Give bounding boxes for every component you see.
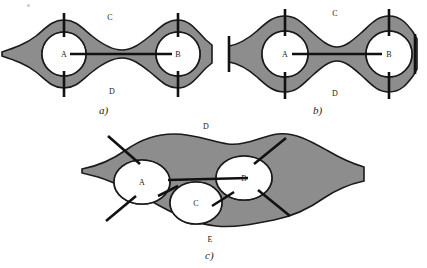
panel-b-hole-label-A: A [282, 50, 288, 59]
panel-a-hole-label-A: A [61, 50, 67, 59]
panel-b-region-label-C: C [332, 9, 337, 18]
panel-a-region-label-C: C [107, 13, 112, 22]
panel-c-hole-label-B: B [241, 174, 246, 183]
panel-c-hole-label-C: C [193, 199, 198, 208]
panel-b-caption: b) [313, 104, 322, 116]
figure-canvas: C D A B a) C D A B b) [0, 0, 427, 268]
panel-c-edge-A-lower-left [106, 196, 136, 221]
panel-c-hole-label-A: A [139, 178, 145, 187]
panel-a-diagram: C D A B [0, 4, 214, 104]
panel-c-region-label-E: E [208, 235, 213, 244]
panel-b-diagram: C D A B [215, 4, 427, 104]
panel-c-caption: c) [205, 249, 214, 261]
panel-a-hole-label-B: B [175, 50, 180, 59]
panel-b-hole-label-B: B [386, 50, 391, 59]
panel-a-caption: a) [99, 104, 108, 116]
panel-b-region-label-D: D [332, 89, 338, 98]
panel-c-diagram: D E A B C [78, 122, 368, 244]
panel-c-region-label-D: D [203, 122, 209, 131]
panel-a-region-label-D: D [109, 87, 115, 96]
